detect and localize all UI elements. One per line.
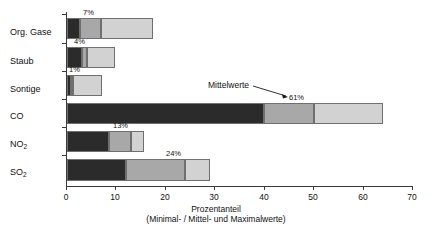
- x-axis-subtitle: (Minimal- / Mittel- und Maximalwerte): [0, 214, 432, 225]
- chart-container: Org. Gase Staub Sontige CO NO2 SO2 0 10 …: [0, 0, 432, 232]
- annotation-leader-line: [0, 0, 432, 232]
